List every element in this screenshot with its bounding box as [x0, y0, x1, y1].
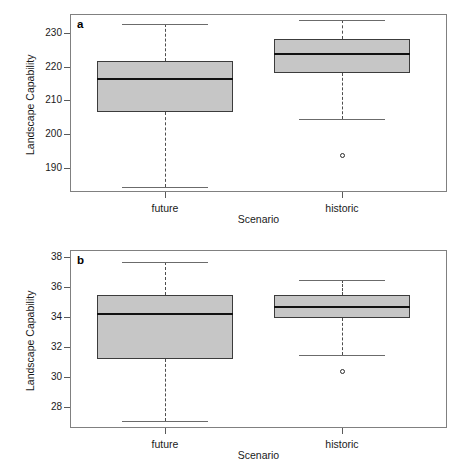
- outlier-point: [340, 369, 345, 374]
- cap-upper: [299, 20, 385, 21]
- outlier-point: [340, 153, 345, 158]
- box-layer-a: [0, 0, 460, 236]
- whisker-lower: [342, 73, 343, 119]
- boxplot-figure: a Landscape Capability Scenario 23022021…: [0, 0, 460, 472]
- median-line: [274, 53, 410, 55]
- median-line: [274, 306, 410, 308]
- whisker-lower: [342, 318, 343, 355]
- cap-upper: [299, 280, 385, 281]
- cap-lower: [299, 355, 385, 356]
- whisker-upper: [342, 20, 343, 40]
- cap-lower: [299, 119, 385, 120]
- boxplot-historic-b: [0, 236, 460, 472]
- boxplot-historic-a: [0, 0, 460, 236]
- box-layer-b: [0, 236, 460, 472]
- panel-a: a Landscape Capability Scenario 23022021…: [0, 0, 460, 236]
- whisker-upper: [342, 280, 343, 295]
- panel-b: b Landscape Capability Scenario 38363432…: [0, 236, 460, 472]
- box-iqr: [274, 39, 410, 73]
